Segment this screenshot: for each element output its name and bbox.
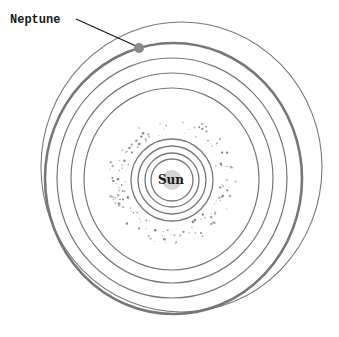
asteroid-dot (109, 168, 110, 169)
asteroid-dot (200, 232, 202, 234)
asteroid-dot (110, 161, 112, 163)
asteroid-dot (222, 185, 224, 187)
asteroid-dot (163, 128, 164, 129)
asteroid-dot (137, 147, 138, 148)
asteroid-dot (145, 219, 147, 221)
asteroid-dot (109, 195, 112, 198)
asteroid-dot (232, 167, 233, 168)
asteroid-dot (114, 202, 116, 204)
asteroid-dot (121, 149, 123, 151)
asteroid-dot (126, 222, 128, 224)
asteroid-dot (123, 159, 125, 161)
asteroid-dot (128, 147, 130, 149)
sun-label: Sun (158, 173, 184, 187)
asteroid-dot (111, 177, 113, 179)
asteroid-dot (211, 213, 212, 214)
asteroid-dot (133, 212, 135, 214)
asteroid-dot (122, 199, 124, 201)
asteroid-dot (214, 212, 216, 214)
asteroid-dot (113, 198, 115, 200)
asteroid-dot (135, 139, 138, 142)
asteroid-dot (212, 221, 215, 224)
asteroid-dot (226, 208, 227, 209)
asteroid-dot (125, 152, 126, 153)
asteroid-dot (189, 129, 190, 130)
asteroid-dot (127, 196, 130, 199)
asteroid-dot (118, 187, 119, 188)
asteroid-dot (175, 242, 176, 243)
asteroid-dot (207, 140, 209, 142)
asteroid-dot (188, 232, 190, 234)
asteroid-dot (219, 138, 221, 140)
asteroid-dot (229, 195, 232, 198)
asteroid-dot (201, 123, 203, 125)
asteroid-dot (170, 234, 171, 235)
asteroid-dot (235, 180, 237, 182)
asteroid-dot (158, 135, 159, 136)
asteroid-dot (216, 200, 217, 201)
asteroid-dot (112, 180, 114, 182)
asteroid-dot (140, 221, 141, 222)
asteroid-dot (154, 241, 155, 242)
asteroid-dot (227, 166, 229, 168)
asteroid-dot (194, 219, 197, 222)
asteroid-dot (195, 232, 196, 233)
asteroid-dot (182, 122, 183, 123)
asteroid-dot (230, 166, 233, 169)
asteroid-dot (122, 190, 124, 192)
asteroid-dot (124, 181, 126, 183)
asteroid-dot (149, 220, 150, 221)
asteroid-dot (200, 219, 202, 221)
asteroid-dot (182, 231, 184, 233)
asteroid-dot (147, 133, 149, 135)
asteroid-dot (222, 184, 223, 185)
asteroid-dot (119, 170, 120, 171)
asteroid-dot (221, 151, 223, 153)
asteroid-dot (150, 238, 152, 240)
asteroid-dot (166, 229, 168, 231)
asteroid-dot (138, 143, 141, 146)
asteroid-dot (192, 221, 195, 224)
asteroid-dot (198, 126, 200, 128)
asteroid-dot (126, 151, 128, 153)
asteroid-dot (216, 142, 218, 144)
asteroid-dot (165, 242, 166, 243)
asteroid-dot (202, 213, 204, 215)
asteroid-dot (210, 216, 213, 219)
asteroid-dot (136, 212, 138, 214)
asteroid-dot (118, 204, 120, 206)
asteroid-dot (165, 125, 166, 126)
asteroid-dot (146, 228, 147, 229)
asteroid-dot (139, 218, 140, 219)
asteroid-dot (117, 178, 120, 181)
neptune-label: Neptune (10, 13, 60, 27)
asteroid-dot (226, 179, 228, 181)
asteroid-dot (226, 189, 228, 191)
asteroid-dot (117, 194, 120, 197)
asteroid-dot (138, 228, 140, 230)
asteroid-dot (226, 152, 228, 154)
asteroid-dot (159, 123, 160, 124)
asteroid-dot (128, 164, 130, 166)
asteroid-dot (204, 217, 206, 219)
asteroid-dot (184, 132, 185, 133)
asteroid-dot (210, 223, 212, 225)
asteroid-dot (163, 238, 166, 241)
asteroid-dot (115, 183, 116, 184)
solar-system-diagram: Sun Neptune (0, 0, 339, 337)
orbit-diagram-svg: Sun Neptune (0, 0, 339, 337)
asteroid-dot (122, 164, 123, 165)
asteroid-dot (211, 146, 212, 147)
asteroid-dot (202, 235, 204, 237)
asteroid-dot (225, 166, 226, 167)
asteroid-dot (140, 135, 142, 137)
asteroid-dot (194, 127, 196, 129)
orbits-group (41, 22, 322, 314)
asteroid-dot (130, 207, 132, 209)
asteroid-dot (131, 210, 132, 211)
asteroid-dot (144, 138, 146, 140)
asteroid-dot (115, 197, 117, 199)
asteroid-dot (148, 136, 150, 138)
asteroid-dot (131, 151, 133, 153)
asteroid-dot (191, 227, 192, 228)
